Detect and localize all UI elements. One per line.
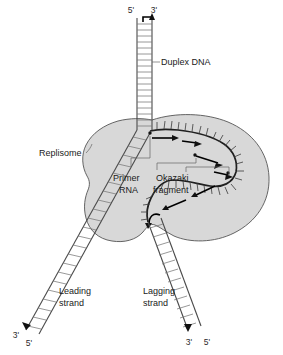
primer-start-dot-1	[148, 131, 151, 134]
end-label-lagging-inner: 3'	[186, 337, 193, 347]
leading-strand-label-line1: Leading	[59, 286, 91, 296]
end-label-top-right: 3'	[151, 5, 158, 15]
okazaki-fragment-label-line1: Okazaki	[156, 173, 189, 183]
replication-fork-diagram: 5' 3' Duplex DNA	[0, 0, 283, 355]
lagging-strand-label-line2: strand	[143, 298, 168, 308]
okazaki-fragment-label-line2: fragment	[153, 185, 189, 195]
end-label-leading-inner: 5'	[26, 338, 33, 348]
duplex-dna-ladder	[137, 13, 155, 130]
duplex-dna-label: Duplex DNA	[161, 57, 211, 67]
leading-strand-label-line2: strand	[59, 298, 84, 308]
replisome-label: Replisome	[39, 148, 82, 158]
end-label-top-left: 5'	[128, 5, 135, 15]
lagging-strand-label-line1: Lagging	[143, 286, 175, 296]
primer-start-dot-2	[193, 153, 196, 156]
end-label-leading-outer: 3'	[13, 330, 20, 340]
end-label-lagging-outer: 5'	[204, 337, 211, 347]
primer-rna-label-line1: Primer	[113, 173, 140, 183]
primer-rna-label-line2: RNA	[119, 185, 138, 195]
